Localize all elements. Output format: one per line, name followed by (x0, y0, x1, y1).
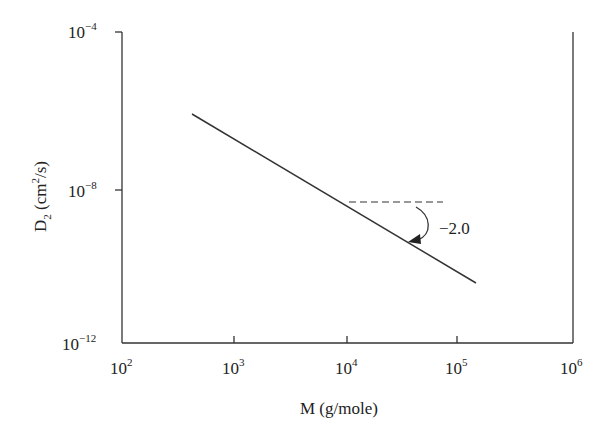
y-tick-label: 10−4 (68, 20, 97, 42)
x-tick-label: 106 (560, 356, 583, 378)
x-tick-label: 103 (222, 356, 245, 378)
y-tick-label: 10−12 (62, 332, 96, 354)
y-tick-label: 10−8 (68, 179, 97, 201)
slope-annotation: −2.0 (439, 219, 470, 238)
slope-arrow-icon (416, 207, 428, 240)
chart: 10−4 10−8 10−12 102 103 104 105 106 M (g… (0, 0, 616, 439)
arrowhead-icon (408, 234, 421, 244)
x-tick-label: 105 (445, 356, 468, 378)
axes (115, 32, 573, 343)
data-line (192, 114, 476, 283)
x-tick-label: 104 (335, 356, 358, 378)
x-axis-label: M (g/mole) (300, 399, 378, 418)
y-axis-label: D2 (cm2/s) (29, 161, 53, 232)
x-tick-label: 102 (110, 356, 133, 378)
